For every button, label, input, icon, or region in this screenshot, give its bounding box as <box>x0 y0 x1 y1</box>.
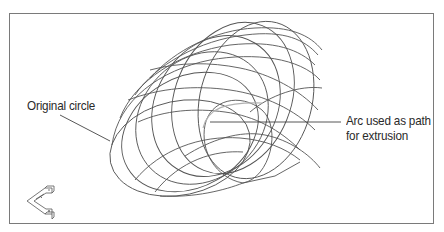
leader-original-circle <box>60 115 110 141</box>
ucs-icon <box>27 186 54 219</box>
arc-path-label-line1: Arc used as path <box>346 113 431 128</box>
path-arc <box>203 103 262 128</box>
original-circle-label: Original circle <box>27 98 95 113</box>
arc-path-label-line2: for extrusion <box>346 128 431 143</box>
arc-path-label: Arc used as path for extrusion <box>346 113 431 143</box>
